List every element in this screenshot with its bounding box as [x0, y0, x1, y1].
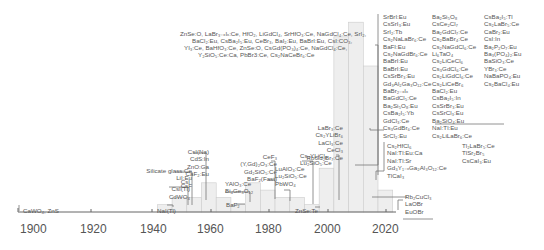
histogram-bar	[349, 22, 364, 212]
label-column-2: Ba₂Si₅O₈ CsCe₂Cl₇ Ba₂GdCl₇:Ce Cs₂BaBr₄:C…	[432, 13, 476, 139]
histogram-bar	[275, 197, 290, 212]
histogram-bar	[319, 168, 334, 212]
label-column-3: CsBa₂I₅:Tl Cs₂LaBr₅:Ce CaBr₂:Eu CsI:In B…	[484, 13, 521, 87]
tick-1920: 1920	[80, 222, 107, 236]
tick-1940: 1940	[140, 222, 167, 236]
label-nai: NaI(Tl)	[157, 207, 176, 214]
label-cef3: CeF₃ (Y,Gd)₂O₃:Ce Gd₂SiO₅:Ce BaF₂(Fast)	[235, 153, 277, 183]
tick-1900: 1900	[20, 222, 47, 236]
label-lualo: LuAlO₃:Ce Lu₂SiO₅:Ce PbWO₄	[275, 165, 307, 187]
label-znse-group-4: Y₂SiO₅:Ce:Ca, PbBr3:Ce, Cs₂NaCeBr₆:Ce	[198, 51, 314, 58]
histogram-bar	[202, 183, 217, 212]
tick-1980: 1980	[255, 222, 282, 236]
histogram-bar	[363, 66, 378, 212]
label-column-1: SrBrI:Eu CsSrI₃:Eu SrI₂:Tb Cs₂NaLaBr₆:Ce…	[383, 13, 431, 139]
label-znsete: ZnSe:Te	[295, 207, 318, 214]
label-cawo4: CaWO₄, ZnS	[23, 207, 59, 214]
label-hf-group-2: Tl₂LaBr₅:Ce TlSr₂Br₅ CsCaI₃:Eu	[462, 142, 495, 164]
tick-1960: 1960	[197, 222, 224, 236]
histogram-bar	[260, 190, 275, 212]
label-csina: CsI(Na) CdS:In ZnO:Ga CaF₂:Eu	[176, 148, 209, 178]
tick-2000: 2000	[314, 222, 341, 236]
label-hf-group: Cs₂HfCl₆ NaI:Tl:Eu:Ca NaI:Tl:Sr Gd₃Y₁₋ₓG…	[387, 142, 447, 179]
label-labr: LaBr₃:Ce Cs₂YLiBr₆ LaCl₃:Ce CeCl₃ RbGd₂B…	[300, 124, 343, 161]
histogram-bar	[378, 190, 393, 212]
tick-2020: 2020	[372, 222, 399, 236]
label-rb: Rb₂CuCl₃ LaOBr EuOBr	[405, 193, 432, 215]
label-baf2: BaF₂	[226, 201, 240, 208]
